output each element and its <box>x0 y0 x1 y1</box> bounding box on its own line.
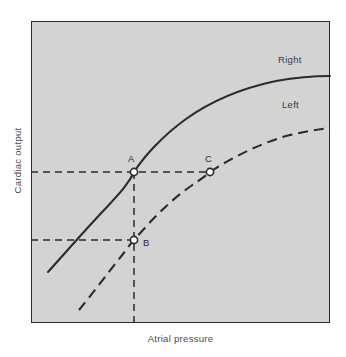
curve-label-right: Right <box>278 54 302 65</box>
x-axis-title: Atrial pressure <box>31 333 330 344</box>
cardiac-function-curve-figure: Right Left A B C Cardiac output Atrial p… <box>0 0 346 357</box>
y-axis-title: Cardiac output <box>12 106 23 216</box>
data-point-label-c: C <box>205 153 212 164</box>
data-point-a-marker <box>130 168 137 175</box>
data-point-c-marker <box>206 168 213 175</box>
plot-canvas <box>31 21 330 323</box>
data-point-b-marker <box>130 236 137 243</box>
data-point-label-b: B <box>143 237 149 248</box>
data-point-label-a: A <box>128 153 134 164</box>
curve-label-left: Left <box>282 99 299 110</box>
